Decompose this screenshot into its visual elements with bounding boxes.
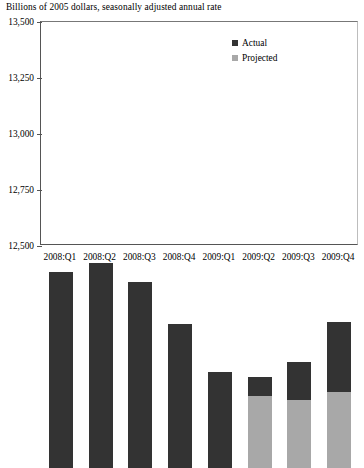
- bar-segment-actual[interactable]: [208, 372, 232, 468]
- legend-swatch-icon: [232, 40, 238, 46]
- y-axis-label: 12,750: [8, 185, 34, 195]
- bar-segment-projected[interactable]: [327, 392, 351, 468]
- chart-title: Billions of 2005 dollars, seasonally adj…: [6, 2, 222, 13]
- bar-group: [41, 22, 357, 244]
- legend-label: Actual: [242, 38, 267, 48]
- legend-swatch-icon: [232, 55, 238, 61]
- plot-area: 12,50012,75013,00013,25013,500: [40, 21, 358, 245]
- x-axis-label: 2009:Q4: [322, 252, 355, 262]
- x-axis-label: 2008:Q2: [83, 252, 116, 262]
- bar-segment-actual[interactable]: [287, 362, 311, 400]
- x-axis-label: 2009:Q2: [242, 252, 275, 262]
- x-axis-label: 2008:Q4: [163, 252, 196, 262]
- x-axis-label: 2009:Q1: [202, 252, 235, 262]
- bar-segment-actual[interactable]: [248, 377, 272, 396]
- bar-slot[interactable]: [327, 22, 351, 244]
- bar-segment-actual[interactable]: [49, 272, 73, 468]
- legend-item[interactable]: Actual: [232, 35, 277, 50]
- bar-segment-projected[interactable]: [248, 396, 272, 468]
- bar-slot[interactable]: [208, 22, 232, 244]
- bar-slot[interactable]: [128, 22, 152, 244]
- y-axis-label: 12,500: [8, 241, 34, 251]
- chart-legend: ActualProjected: [232, 35, 277, 65]
- legend-item[interactable]: Projected: [232, 50, 277, 65]
- y-axis-tick: [37, 246, 42, 247]
- bar-segment-projected[interactable]: [287, 400, 311, 468]
- x-axis-label: 2008:Q1: [43, 252, 76, 262]
- bar-slot[interactable]: [287, 22, 311, 244]
- bar-slot[interactable]: [49, 22, 73, 244]
- bar-slot[interactable]: [89, 22, 113, 244]
- bar-segment-actual[interactable]: [89, 263, 113, 468]
- bar-slot[interactable]: [168, 22, 192, 244]
- y-axis-label: 13,000: [8, 129, 34, 139]
- x-axis-label: 2009:Q3: [282, 252, 315, 262]
- bar-segment-actual[interactable]: [168, 324, 192, 468]
- bar-segment-actual[interactable]: [128, 282, 152, 468]
- bar-segment-actual[interactable]: [327, 322, 351, 391]
- x-axis-label: 2008:Q3: [123, 252, 156, 262]
- y-axis-label: 13,500: [8, 17, 34, 27]
- legend-label: Projected: [242, 53, 277, 63]
- y-axis-label: 13,250: [8, 73, 34, 83]
